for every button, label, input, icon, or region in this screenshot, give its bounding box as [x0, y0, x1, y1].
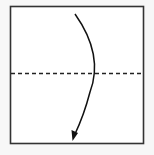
origami-diagram	[0, 0, 154, 155]
paper-square	[11, 7, 144, 144]
